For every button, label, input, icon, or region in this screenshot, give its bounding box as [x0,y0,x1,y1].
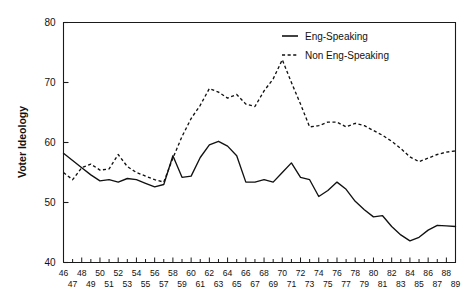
line-chart: 4050607080 46474849505152535455565758596… [0,0,474,295]
x-tick-label: 70 [278,268,288,278]
x-axis-tick-labels: 4647484950515253545556575859606162636465… [59,268,461,289]
y-tick-label: 80 [44,17,56,28]
y-tick-label: 50 [44,197,56,208]
x-tick-label: 48 [77,268,87,278]
x-tick-label: 49 [86,279,96,289]
data-series-layer [64,60,456,241]
x-tick-label: 85 [414,279,424,289]
x-tick-label: 63 [214,279,224,289]
y-tick-label: 40 [44,257,56,268]
x-tick-label: 81 [378,279,388,289]
x-tick-label: 67 [250,279,260,289]
x-tick-label: 66 [241,268,251,278]
x-tick-label: 78 [350,268,360,278]
x-tick-label: 74 [314,268,324,278]
y-axis-title: Voter Ideology [16,106,28,178]
x-tick-label: 60 [186,268,196,278]
y-tick-label: 60 [44,137,56,148]
y-axis-tick-labels: 4050607080 [44,17,56,268]
x-tick-label: 65 [232,279,242,289]
x-tick-label: 58 [168,268,178,278]
x-tick-label: 83 [396,279,406,289]
x-tick-label: 71 [287,279,297,289]
chart-container: 4050607080 46474849505152535455565758596… [0,0,474,295]
x-tick-label: 59 [177,279,187,289]
x-tick-label: 61 [195,279,205,289]
x-tick-label: 51 [104,279,114,289]
x-tick-label: 64 [223,268,233,278]
x-tick-label: 57 [159,279,169,289]
x-tick-label: 47 [68,279,78,289]
x-tick-label: 52 [113,268,123,278]
x-tick-label: 87 [432,279,442,289]
y-axis-ticks [64,23,69,263]
x-tick-label: 89 [451,279,461,289]
x-tick-label: 53 [123,279,133,289]
series-line-1 [64,141,456,241]
x-axis-ticks [64,258,456,263]
x-tick-label: 88 [442,268,452,278]
x-tick-label: 77 [341,279,351,289]
x-tick-label: 80 [369,268,379,278]
x-tick-label: 55 [141,279,151,289]
plot-border [64,23,456,263]
x-tick-label: 82 [387,268,397,278]
series-line-2 [64,60,456,182]
x-tick-label: 86 [423,268,433,278]
x-tick-label: 72 [296,268,306,278]
x-tick-label: 84 [405,268,415,278]
x-tick-label: 46 [59,268,69,278]
x-tick-label: 79 [360,279,370,289]
x-tick-label: 73 [305,279,315,289]
x-tick-label: 62 [205,268,215,278]
x-tick-label: 75 [323,279,333,289]
y-tick-label: 70 [44,77,56,88]
x-tick-label: 56 [150,268,160,278]
plot-frame [64,23,456,263]
x-tick-label: 69 [268,279,278,289]
x-tick-label: 76 [332,268,342,278]
chart-legend: Eng-SpeakingNon Eng-Speaking [282,31,389,61]
x-tick-label: 54 [132,268,142,278]
x-tick-label: 50 [95,268,105,278]
x-tick-label: 68 [259,268,269,278]
legend-label-2: Non Eng-Speaking [305,50,389,61]
legend-label-1: Eng-Speaking [305,31,368,42]
